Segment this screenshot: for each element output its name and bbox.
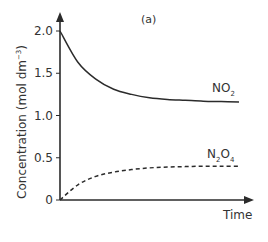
n2o4-series-line: [60, 166, 239, 200]
panel-label: (a): [141, 13, 156, 26]
y-axis-arrow-icon: [56, 12, 64, 22]
y-axis-label: Concentration (mol dm−3): [15, 45, 29, 199]
y-tick-label: 2.0: [34, 24, 53, 38]
y-tick-label: 1.0: [34, 109, 53, 123]
y-tick-label: 0: [45, 193, 53, 207]
y-axis: 00.51.01.52.0: [34, 12, 64, 207]
x-axis: Time: [60, 196, 254, 222]
x-axis-arrow-icon: [244, 196, 254, 204]
y-tick-label: 1.5: [34, 66, 53, 80]
no2-series-label: NO2: [212, 81, 235, 98]
concentration-time-chart: (a) 00.51.01.52.0 Time Concentration (mo…: [0, 0, 268, 242]
y-tick-label: 0.5: [34, 151, 53, 165]
x-axis-label: Time: [222, 208, 252, 222]
n2o4-series-label: N2O4: [207, 147, 235, 164]
